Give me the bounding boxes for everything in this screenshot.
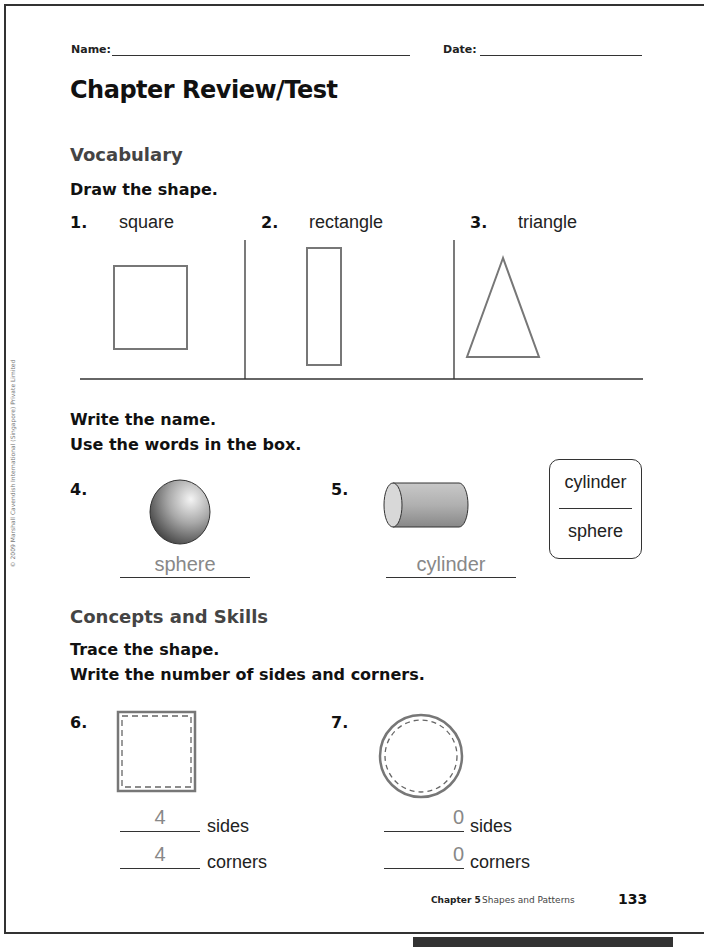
name-label: Name:	[71, 43, 111, 56]
write-name-instruction: Write the name.	[70, 410, 216, 429]
footer-chapter: Chapter 5	[431, 895, 481, 905]
vocabulary-heading: Vocabulary	[70, 144, 183, 165]
item-6-corners-line	[120, 868, 200, 869]
item-6-corners-answer[interactable]: 4	[120, 843, 200, 866]
triangle-shape	[467, 258, 539, 357]
item-7-sides-label: sides	[470, 816, 512, 837]
use-words-instruction: Use the words in the box.	[70, 435, 301, 454]
item-2-number: 2.	[261, 213, 278, 232]
cylinder-image	[383, 481, 471, 529]
page-title: Chapter Review/Test	[70, 76, 338, 104]
item-4-answer[interactable]: sphere	[120, 553, 250, 576]
trace-instruction: Trace the shape.	[70, 640, 219, 659]
item-2-word: rectangle	[309, 212, 383, 233]
page-number: 133	[618, 891, 647, 907]
name-field[interactable]	[112, 55, 410, 56]
square-shape	[114, 266, 187, 349]
item-6-number: 6.	[70, 713, 87, 732]
draw-shapes-area	[80, 235, 645, 385]
item-5-answer-line	[386, 577, 516, 578]
item-7-corners-label: corners	[470, 852, 530, 873]
vocabulary-instruction: Draw the shape.	[70, 180, 218, 199]
item-6-sides-label: sides	[207, 816, 249, 837]
word-box: cylinder sphere	[549, 459, 642, 559]
word-box-sphere: sphere	[550, 521, 641, 542]
sphere-image	[148, 478, 212, 546]
item-6-sides-answer[interactable]: 4	[120, 806, 200, 829]
trace-circle-shape[interactable]	[378, 712, 464, 800]
item-7-sides-answer[interactable]: 0	[384, 806, 464, 829]
item-3-number: 3.	[470, 213, 487, 232]
item-3-word: triangle	[518, 212, 577, 233]
item-7-number: 7.	[331, 713, 348, 732]
concepts-heading: Concepts and Skills	[70, 606, 268, 627]
date-label: Date:	[443, 43, 477, 56]
item-7-corners-answer[interactable]: 0	[384, 843, 464, 866]
item-5-answer[interactable]: cylinder	[386, 553, 516, 576]
item-5-number: 5.	[331, 480, 348, 499]
rectangle-shape	[307, 248, 341, 365]
bottom-shadow-bar	[413, 937, 673, 947]
write-number-instruction: Write the number of sides and corners.	[70, 665, 425, 684]
item-1-number: 1.	[70, 213, 87, 232]
word-box-divider	[559, 508, 632, 509]
item-7-sides-line	[384, 831, 464, 832]
item-6-corners-label: corners	[207, 852, 267, 873]
item-4-answer-line	[120, 577, 250, 578]
word-box-cylinder: cylinder	[550, 472, 641, 493]
item-4-number: 4.	[70, 480, 87, 499]
copyright-notice: © 2009 Marshall Cavendish International …	[9, 334, 16, 594]
trace-square-shape[interactable]	[116, 710, 198, 794]
footer-subtitle: Shapes and Patterns	[482, 895, 575, 905]
item-6-sides-line	[120, 831, 200, 832]
item-7-corners-line	[384, 868, 464, 869]
date-field[interactable]	[480, 55, 642, 56]
item-1-word: square	[119, 212, 174, 233]
